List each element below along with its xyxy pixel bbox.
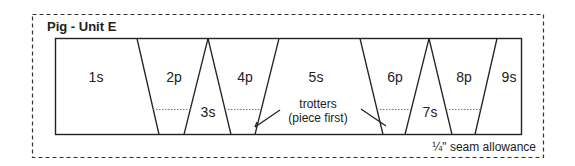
seam-line-7-8: [429, 39, 452, 135]
seam-line-8-9: [475, 39, 497, 135]
pig-unit-e-diagram: Pig - Unit E 1s 2p 3s 4p 5s 6p 7s 8p 9s: [0, 0, 575, 166]
piece-label-6p: 6p: [387, 69, 403, 85]
annotation-trotters: trotters: [299, 97, 336, 111]
seam-allowance-border: [33, 15, 544, 158]
piece-label-3s: 3s: [201, 104, 216, 120]
seam-line-6-7: [405, 39, 429, 135]
piece-label-8p: 8p: [456, 69, 472, 85]
seam-line-4-5: [255, 39, 279, 135]
seam-allowance-note: ¼" seam allowance: [432, 140, 536, 154]
piece-label-5s: 5s: [309, 69, 324, 85]
piece-label-1s: 1s: [89, 69, 104, 85]
seam-line-2-3: [184, 39, 208, 135]
piece-label-9s: 9s: [502, 69, 517, 85]
piece-label-4p: 4p: [237, 69, 253, 85]
seam-line-3-4: [208, 39, 231, 135]
seam-line-5-6: [360, 39, 383, 135]
pointer-right: [361, 109, 386, 126]
annotation-piece-first: (piece first): [288, 111, 347, 125]
seam-line-1-2: [137, 39, 159, 135]
unit-title: Pig - Unit E: [47, 19, 117, 34]
piece-label-7s: 7s: [423, 104, 438, 120]
piece-label-2p: 2p: [166, 69, 182, 85]
